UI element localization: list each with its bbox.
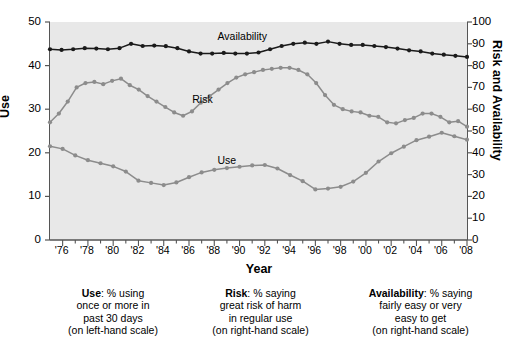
data-point-risk bbox=[172, 110, 176, 114]
data-point-risk bbox=[92, 80, 96, 84]
data-point-use bbox=[389, 151, 393, 155]
x-tick-04: '04 bbox=[409, 245, 423, 256]
plot-svg bbox=[50, 22, 467, 240]
data-point-availability bbox=[129, 42, 133, 46]
data-point-risk bbox=[447, 120, 451, 124]
data-point-use bbox=[364, 171, 368, 175]
x-tick-90: '90 bbox=[232, 245, 246, 256]
data-point-availability bbox=[337, 42, 341, 46]
caption-availability-term: Availability bbox=[369, 287, 424, 299]
data-point-availability bbox=[430, 52, 434, 56]
data-point-use bbox=[174, 180, 178, 184]
data-point-use bbox=[288, 173, 292, 177]
x-tick-80: '80 bbox=[105, 245, 119, 256]
data-point-availability bbox=[407, 48, 411, 52]
data-point-risk bbox=[367, 114, 371, 118]
y-tick-right-10: 10 bbox=[472, 212, 485, 224]
series-label-use: Use bbox=[218, 155, 237, 166]
caption-availability-line3: easy to get bbox=[333, 312, 508, 324]
data-point-use bbox=[313, 187, 317, 191]
plot-area: Availability Risk Use bbox=[49, 22, 468, 240]
x-tick-78: '78 bbox=[80, 245, 94, 256]
data-point-risk bbox=[270, 67, 274, 71]
caption-risk-line2: great risk of harm bbox=[191, 299, 331, 311]
data-point-use bbox=[162, 183, 166, 187]
y-tick-right-20: 20 bbox=[472, 190, 485, 202]
data-point-risk bbox=[296, 68, 300, 72]
data-point-risk bbox=[101, 82, 105, 86]
x-tick-08: '08 bbox=[459, 245, 473, 256]
data-point-risk bbox=[128, 83, 132, 87]
data-point-risk bbox=[350, 109, 354, 113]
caption-use-line4: (on left-hand scale) bbox=[38, 324, 188, 336]
data-point-availability bbox=[268, 47, 272, 51]
data-point-availability bbox=[83, 46, 87, 50]
caption-risk-rest: : % saying bbox=[247, 287, 295, 299]
data-point-availability bbox=[256, 50, 260, 54]
y-tick-right-30: 30 bbox=[472, 169, 485, 181]
data-point-risk bbox=[119, 77, 123, 81]
series-line-use bbox=[50, 133, 467, 190]
data-point-use bbox=[237, 165, 241, 169]
data-point-availability bbox=[210, 52, 214, 56]
data-point-availability bbox=[384, 45, 388, 49]
data-point-use bbox=[440, 131, 444, 135]
data-point-availability bbox=[442, 53, 446, 57]
caption-use-line2: once or more in bbox=[38, 299, 188, 311]
data-point-availability bbox=[48, 47, 52, 51]
caption-availability-line2: fairly easy or very bbox=[333, 299, 508, 311]
data-point-use bbox=[326, 186, 330, 190]
y-tick-left-50: 50 bbox=[19, 16, 41, 28]
data-point-risk bbox=[234, 75, 238, 79]
data-point-availability bbox=[326, 40, 330, 44]
data-point-use bbox=[200, 170, 204, 174]
data-point-use bbox=[149, 181, 153, 185]
data-point-availability bbox=[222, 51, 226, 55]
data-point-availability bbox=[71, 47, 75, 51]
y-tick-left-40: 40 bbox=[19, 60, 41, 72]
data-point-use bbox=[225, 166, 229, 170]
data-point-use bbox=[86, 158, 90, 162]
data-point-risk bbox=[225, 81, 229, 85]
data-point-availability bbox=[280, 44, 284, 48]
caption-use-term: Use bbox=[82, 287, 101, 299]
x-tick-82: '82 bbox=[131, 245, 145, 256]
y-tick-right-60: 60 bbox=[472, 103, 485, 115]
data-point-risk bbox=[314, 81, 318, 85]
data-point-availability bbox=[361, 43, 365, 47]
data-point-use bbox=[48, 144, 52, 148]
data-point-risk bbox=[287, 66, 291, 70]
data-point-availability bbox=[233, 52, 237, 56]
x-tick-06: '06 bbox=[434, 245, 448, 256]
data-point-risk bbox=[332, 103, 336, 107]
data-point-risk bbox=[421, 111, 425, 115]
data-point-risk bbox=[252, 70, 256, 74]
data-point-availability bbox=[291, 42, 295, 46]
x-axis-title: Year bbox=[0, 262, 518, 276]
data-point-use bbox=[212, 168, 216, 172]
series-label-risk: Risk bbox=[192, 94, 212, 105]
data-point-risk bbox=[66, 99, 70, 103]
data-point-risk bbox=[403, 118, 407, 122]
data-point-availability bbox=[175, 46, 179, 50]
data-point-use bbox=[414, 138, 418, 142]
data-point-risk bbox=[438, 115, 442, 119]
caption-risk-line4: (on right-hand scale) bbox=[191, 324, 331, 336]
caption-risk: Risk: % saying great risk of harm in reg… bbox=[191, 287, 331, 337]
data-point-risk bbox=[48, 120, 52, 124]
y-tick-right-50: 50 bbox=[472, 125, 485, 137]
y-tick-right-80: 80 bbox=[472, 60, 485, 72]
chart-figure: Availability Risk Use 01020304050 010203… bbox=[0, 0, 518, 351]
data-point-risk bbox=[83, 81, 87, 85]
data-point-risk bbox=[394, 121, 398, 125]
data-point-risk bbox=[216, 87, 220, 91]
data-point-use bbox=[376, 159, 380, 163]
y-tick-right-40: 40 bbox=[472, 147, 485, 159]
data-point-use bbox=[124, 169, 128, 173]
y-tick-right-90: 90 bbox=[472, 38, 485, 50]
data-point-availability bbox=[187, 49, 191, 53]
y-tick-left-30: 30 bbox=[19, 103, 41, 115]
caption-availability-line1: Availability: % saying bbox=[333, 287, 508, 299]
data-point-availability bbox=[465, 55, 469, 59]
x-tick-92: '92 bbox=[257, 245, 271, 256]
